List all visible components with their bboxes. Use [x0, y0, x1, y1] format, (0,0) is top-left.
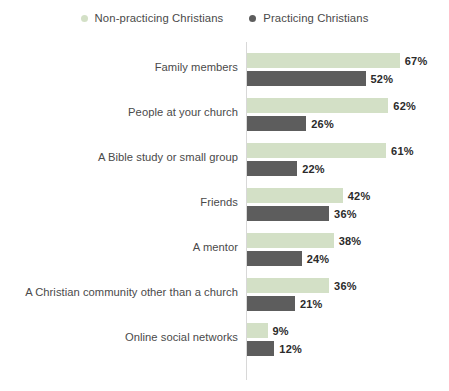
bar-group: Family members67%52% [0, 52, 449, 90]
bar-practicing: 12% [247, 341, 302, 356]
bar-rect [247, 233, 334, 248]
bar-practicing: 22% [247, 161, 325, 176]
bar-practicing: 26% [247, 116, 334, 131]
bar-rect [247, 251, 302, 266]
bar-value-label: 67% [405, 55, 428, 67]
legend-dot-icon [249, 15, 256, 22]
bar-non-practicing: 67% [247, 53, 427, 68]
bar-non-practicing: 38% [247, 233, 361, 248]
bar-rect [247, 53, 400, 68]
legend-dot-icon [81, 15, 88, 22]
bar-group: Online social networks9%12% [0, 322, 449, 360]
bar-value-label: 36% [334, 280, 357, 292]
category-label: People at your church [0, 106, 238, 118]
bar-value-label: 38% [339, 235, 362, 247]
bar-value-label: 61% [391, 145, 414, 157]
bar-value-label: 26% [311, 118, 334, 130]
category-label: Family members [0, 61, 238, 73]
bar-group: A Bible study or small group61%22% [0, 142, 449, 180]
bar-group: Friends42%36% [0, 187, 449, 225]
bar-group: A Christian community other than a churc… [0, 277, 449, 315]
bar-rect [247, 98, 388, 113]
bar-rect [247, 341, 274, 356]
category-label: A Christian community other than a churc… [0, 286, 238, 298]
bar-practicing: 36% [247, 206, 357, 221]
category-label: Friends [0, 196, 238, 208]
category-label: A Bible study or small group [0, 151, 238, 163]
bar-value-label: 21% [300, 298, 323, 310]
bar-group: People at your church62%26% [0, 97, 449, 135]
bar-non-practicing: 9% [247, 323, 289, 338]
legend-label: Non-practicing Christians [95, 12, 224, 24]
bar-value-label: 12% [279, 343, 302, 355]
bar-value-label: 42% [348, 190, 371, 202]
bar-rect [247, 278, 329, 293]
bar-practicing: 21% [247, 296, 323, 311]
bar-rect [247, 161, 297, 176]
bar-value-label: 62% [393, 100, 416, 112]
bar-rect [247, 188, 343, 203]
plot-area: Family members67%52%People at your churc… [0, 40, 449, 385]
bar-rect [247, 323, 268, 338]
chart-legend: Non-practicing Christians Practicing Chr… [0, 12, 449, 24]
bar-non-practicing: 36% [247, 278, 357, 293]
legend-item-non-practicing-christians: Non-practicing Christians [81, 12, 224, 24]
bar-rect [247, 296, 295, 311]
bar-non-practicing: 61% [247, 143, 414, 158]
category-label: A mentor [0, 241, 238, 253]
bar-value-label: 36% [334, 208, 357, 220]
bar-non-practicing: 42% [247, 188, 370, 203]
bar-value-label: 24% [307, 253, 330, 265]
legend-item-practicing-christians: Practicing Christians [249, 12, 368, 24]
category-label: Online social networks [0, 331, 238, 343]
bar-rect [247, 116, 306, 131]
bar-rect [247, 71, 366, 86]
bar-chart: Non-practicing Christians Practicing Chr… [0, 0, 449, 391]
bar-group: A mentor38%24% [0, 232, 449, 270]
bar-practicing: 24% [247, 251, 329, 266]
bar-value-label: 9% [273, 325, 289, 337]
legend-label: Practicing Christians [263, 12, 368, 24]
bar-value-label: 22% [302, 163, 325, 175]
bar-rect [247, 143, 386, 158]
bar-practicing: 52% [247, 71, 393, 86]
bar-non-practicing: 62% [247, 98, 416, 113]
bar-rect [247, 206, 329, 221]
bar-value-label: 52% [371, 73, 394, 85]
